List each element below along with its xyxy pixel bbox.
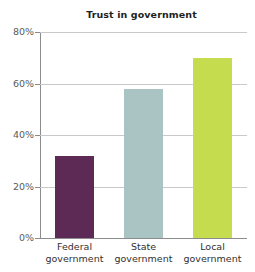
bar-local-government[interactable] [193, 58, 232, 238]
y-axis-label: 20% [0, 181, 34, 192]
gridline-0pct [40, 238, 247, 239]
y-tick-mark [35, 187, 40, 188]
x-label-line-2: government [178, 253, 247, 265]
x-axis-category-labels: FederalgovernmentStategovernmentLocalgov… [40, 241, 247, 272]
x-label-local-government: Localgovernment [178, 241, 247, 264]
y-tick-mark [35, 238, 40, 239]
y-axis-label: 80% [0, 26, 34, 37]
x-label-state-government: Stategovernment [109, 241, 178, 264]
y-tick-mark [35, 32, 40, 33]
bar-chart: Trust in government 0%20%40%60%80% Feder… [0, 0, 255, 272]
y-axis-label: 0% [0, 232, 34, 243]
x-label-line-1: Local [178, 241, 247, 253]
plot-area [40, 32, 247, 238]
y-axis-label: 60% [0, 78, 34, 89]
x-label-federal-government: Federalgovernment [40, 241, 109, 264]
bar-state-government[interactable] [124, 89, 163, 238]
x-label-line-2: government [40, 253, 109, 265]
y-axis-label: 40% [0, 129, 34, 140]
y-tick-mark [35, 135, 40, 136]
chart-title: Trust in government [0, 9, 255, 20]
gridline-80pct [40, 32, 247, 33]
bar-federal-government[interactable] [55, 156, 94, 238]
x-label-line-1: Federal [40, 241, 109, 253]
x-label-line-1: State [109, 241, 178, 253]
y-tick-mark [35, 84, 40, 85]
y-axis-tick-labels: 0%20%40%60%80% [0, 0, 34, 272]
x-label-line-2: government [109, 253, 178, 265]
